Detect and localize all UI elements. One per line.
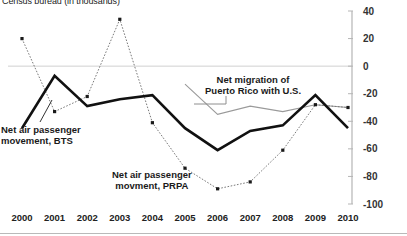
x-tick-label: 2001 [44,212,66,223]
data-point-marker [249,180,252,183]
annotation-prpa-line1: Net air passenger [112,169,192,180]
x-tick-label: 2006 [207,212,228,223]
x-tick-label: 2005 [174,212,196,223]
y-tick-label: -80 [363,171,378,182]
y-tick-label: 20 [363,33,375,44]
annotation-leader-lines [40,96,226,122]
chart-plot-area: 40200-20-40-60-80-100 200020012002200320… [0,0,407,236]
annotation-migration-line2: Puerto Rico with U.S. [205,85,301,96]
y-tick-label: 40 [363,6,375,17]
leader-line-bts [40,100,52,122]
bottom-divider [0,233,407,234]
x-tick-label: 2004 [142,212,164,223]
series-line [22,19,348,189]
data-point-marker [86,95,89,98]
annotation-migration: Net migration of Puerto Rico with U.S. [205,74,301,96]
annotation-prpa-line2: movment, PRPA [112,180,192,191]
annotation-bts-line1: Net air passenger [1,124,81,135]
data-point-marker [151,121,154,124]
y-tick-label: -40 [363,116,378,127]
x-tick-label: 2003 [109,212,130,223]
data-point-marker [281,149,284,152]
x-tick-label: 2002 [77,212,98,223]
annotation-migration-line1: Net migration of [205,74,301,85]
y-tick-label: -60 [363,143,378,154]
annotation-bts: Net air passenger movement, BTS [1,124,81,146]
data-point-marker [346,106,349,109]
data-point-marker [216,187,219,190]
y-axis-tick-labels: 40200-20-40-60-80-100 [363,6,383,210]
series-prpa [20,18,349,191]
x-tick-label: 2007 [240,212,261,223]
data-point-marker [118,18,121,21]
x-tick-label: 2009 [305,212,326,223]
data-point-marker [20,37,23,40]
annotation-bts-line2: movement, BTS [1,135,81,146]
x-axis-tick-labels: 2000200120022003200420052006200720082009… [11,212,358,223]
x-tick-label: 2010 [337,212,358,223]
x-tick-label: 2008 [272,212,293,223]
data-point-marker [53,110,56,113]
annotation-prpa: Net air passenger movment, PRPA [112,169,192,191]
y-tick-label: -20 [363,88,378,99]
chart-container: Census bureau (in thousands) 40200-20-40… [0,0,407,236]
y-tick-label: -100 [363,199,383,210]
x-tick-label: 2000 [11,212,32,223]
y-tick-label: 0 [363,61,369,72]
data-point-marker [314,103,317,106]
